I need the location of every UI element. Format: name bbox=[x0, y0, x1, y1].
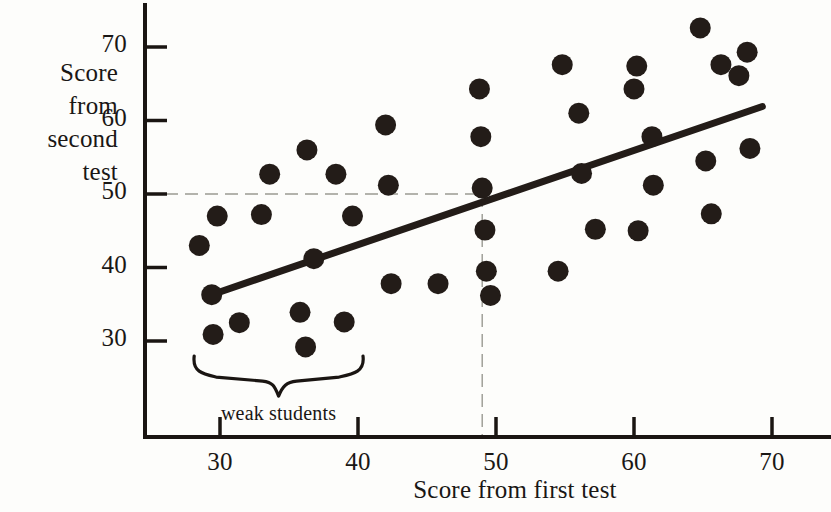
data-point bbox=[548, 261, 569, 282]
data-point bbox=[334, 311, 355, 332]
data-points-group bbox=[189, 17, 761, 357]
data-point bbox=[585, 219, 606, 240]
data-point bbox=[378, 175, 399, 196]
data-point bbox=[296, 139, 317, 160]
y-tick-label: 50 bbox=[79, 177, 127, 205]
y-tick-label: 30 bbox=[79, 324, 127, 352]
data-point bbox=[381, 273, 402, 294]
data-point bbox=[325, 164, 346, 185]
data-point bbox=[568, 103, 589, 124]
data-point bbox=[643, 175, 664, 196]
data-point bbox=[480, 285, 501, 306]
data-point bbox=[375, 114, 396, 135]
y-tick-label: 40 bbox=[79, 251, 127, 279]
data-point bbox=[251, 204, 272, 225]
data-point bbox=[470, 126, 491, 147]
data-point bbox=[728, 65, 749, 86]
data-point bbox=[626, 56, 647, 77]
weak-students-brace bbox=[194, 356, 363, 396]
y-tick-label: 70 bbox=[79, 30, 127, 58]
data-point bbox=[295, 336, 316, 357]
x-tick-label: 70 bbox=[742, 448, 802, 476]
data-point bbox=[571, 163, 592, 184]
data-point bbox=[701, 203, 722, 224]
reference-lines-group bbox=[145, 194, 482, 437]
data-point bbox=[737, 42, 758, 63]
data-point bbox=[303, 248, 324, 269]
x-tick-label: 50 bbox=[466, 448, 526, 476]
data-point bbox=[207, 206, 228, 227]
data-point bbox=[624, 78, 645, 99]
x-tick-label: 40 bbox=[328, 448, 388, 476]
data-point bbox=[739, 138, 760, 159]
data-point bbox=[690, 17, 711, 38]
data-point bbox=[474, 220, 495, 241]
data-point bbox=[710, 54, 731, 75]
data-point bbox=[628, 220, 649, 241]
data-point bbox=[189, 235, 210, 256]
y-tick-label: 60 bbox=[79, 104, 127, 132]
data-point bbox=[472, 178, 493, 199]
data-point bbox=[476, 261, 497, 282]
data-point bbox=[469, 78, 490, 99]
data-point bbox=[201, 284, 222, 305]
data-point bbox=[203, 324, 224, 345]
x-tick-label: 30 bbox=[190, 448, 250, 476]
x-tick-label: 60 bbox=[604, 448, 664, 476]
brace-icon bbox=[194, 356, 363, 396]
data-point bbox=[342, 206, 363, 227]
data-point bbox=[428, 273, 449, 294]
data-point bbox=[259, 164, 280, 185]
data-point bbox=[290, 302, 311, 323]
weak-students-label: weak students bbox=[169, 402, 389, 425]
scatter-plot-figure: Score from second test Score from first … bbox=[0, 0, 831, 512]
data-point bbox=[641, 126, 662, 147]
data-point bbox=[229, 312, 250, 333]
data-point bbox=[552, 54, 573, 75]
data-point bbox=[695, 150, 716, 171]
